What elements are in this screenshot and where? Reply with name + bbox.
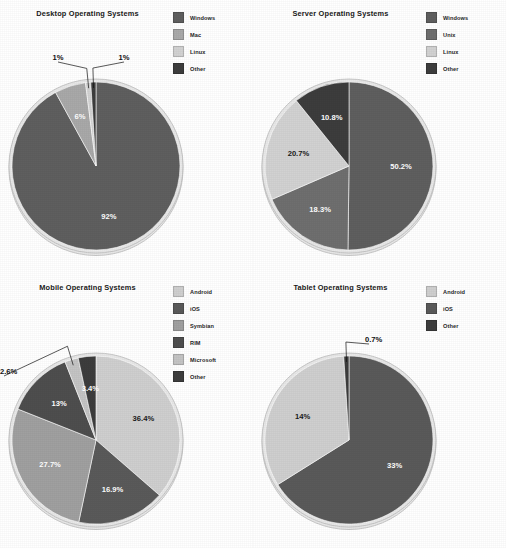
slice-label-ios: 16.9% (102, 485, 124, 494)
legend-swatch-icon (426, 286, 437, 297)
legend-label: Symbian (190, 323, 214, 329)
legend-label: Mac (190, 32, 201, 38)
slice-label-android: 36.4% (133, 414, 155, 423)
legend-label: iOS (443, 306, 453, 312)
chart-panel-server: Server Operating SystemsWindowsUnixLinux… (253, 0, 506, 274)
slice-label-ios: 33% (387, 461, 402, 470)
chart-panel-desktop: Desktop Operating SystemsWindowsMacLinux… (0, 0, 253, 274)
pie-chart-desktop: 92%6%1%1% (8, 38, 188, 264)
chart-title: Mobile Operating Systems (0, 283, 175, 292)
slice-label-windows: 92% (101, 212, 116, 221)
pie-chart-mobile: 36.4%16.9%27.7%13%3.4%2.6% (8, 312, 188, 538)
pie-chart-tablet: 33%14%0.7% (261, 312, 441, 538)
slice-label-linux: 20.7% (288, 149, 310, 158)
legend-item-windows[interactable]: Windows (426, 9, 502, 26)
legend-item-android[interactable]: Android (173, 283, 249, 300)
slice-label-unix: 18.3% (309, 205, 331, 214)
pie-svg: 50.2%18.3%20.7%10.8% (261, 38, 441, 264)
slice-label-android: 14% (295, 412, 310, 421)
legend-label: Android (443, 289, 465, 295)
legend-swatch-icon (426, 12, 437, 23)
chart-panel-tablet: Tablet Operating SystemsAndroidiOSOther3… (253, 274, 506, 548)
slice-label-rim: 13% (52, 399, 67, 408)
slice-label-symbian: 27.7% (39, 460, 61, 469)
legend-item-android[interactable]: Android (426, 283, 502, 300)
legend-label: RIM (190, 340, 201, 346)
chart-title: Server Operating Systems (253, 9, 428, 18)
chart-panel-mobile: Mobile Operating SystemsAndroidiOSSymbia… (0, 274, 253, 548)
chart-title: Tablet Operating Systems (253, 283, 428, 292)
slice-label-other: 3.4% (82, 384, 100, 393)
legend-label: Other (190, 374, 205, 380)
charts-grid: Desktop Operating SystemsWindowsMacLinux… (0, 0, 506, 548)
pie-svg: 36.4%16.9%27.7%13%3.4%2.6% (8, 312, 188, 538)
legend-label: Unix (443, 32, 456, 38)
slice-label-windows: 50.2% (390, 162, 412, 171)
legend-label: Android (190, 289, 212, 295)
pie-chart-server: 50.2%18.3%20.7%10.8% (261, 38, 441, 264)
slice-label-other: 10.8% (321, 113, 343, 122)
legend-label: Windows (190, 15, 215, 21)
legend-label: Linux (190, 49, 205, 55)
chart-title: Desktop Operating Systems (0, 9, 175, 18)
legend-item-windows[interactable]: Windows (173, 9, 249, 26)
legend-label: Other (190, 66, 205, 72)
pie-svg: 33%14%0.7% (261, 312, 441, 538)
legend-label: Linux (443, 49, 458, 55)
slice-label-linux: 1% (53, 53, 64, 62)
legend-label: Other (443, 323, 458, 329)
slice-label-other: 1% (119, 53, 130, 62)
legend-label: Windows (443, 15, 468, 21)
legend-label: Microsoft (190, 357, 216, 363)
legend-label: iOS (190, 306, 200, 312)
legend-swatch-icon (173, 286, 184, 297)
slice-label-mac: 6% (74, 112, 85, 121)
legend-swatch-icon (173, 12, 184, 23)
legend-label: Other (443, 66, 458, 72)
pie-svg: 92%6%1%1% (8, 38, 188, 264)
slice-label-microsoft: 2.6% (0, 367, 18, 376)
slice-label-other: 0.7% (365, 335, 383, 344)
